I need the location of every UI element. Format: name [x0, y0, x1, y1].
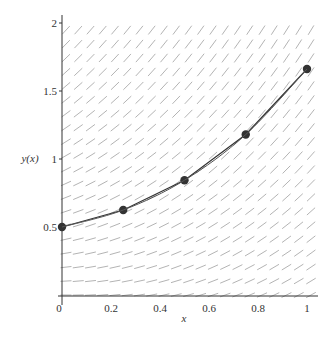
slope-segment — [258, 138, 266, 146]
slope-segment — [123, 124, 131, 131]
slope-segment — [123, 138, 132, 145]
slope-segment — [295, 95, 302, 104]
slope-segment — [234, 68, 241, 77]
slope-segment — [160, 82, 167, 90]
y-tick-label: 2 — [52, 17, 58, 29]
slope-segment — [221, 208, 230, 214]
slope-segment — [196, 208, 205, 214]
slope-segment — [135, 152, 144, 159]
slope-segment — [160, 152, 169, 159]
slope-segment — [185, 54, 192, 63]
slope-segment — [210, 68, 217, 77]
slope-segment — [283, 166, 291, 174]
slope-segment — [173, 26, 180, 35]
slope-segment — [185, 40, 192, 49]
slope-segment — [97, 295, 108, 296]
slope-segment — [271, 82, 278, 91]
slope-segment — [197, 40, 204, 49]
slope-segment — [271, 54, 277, 63]
slope-segment — [183, 251, 193, 255]
slope-segment — [245, 222, 254, 228]
slope-segment — [184, 194, 193, 200]
slope-segment — [196, 180, 205, 187]
slope-segment — [123, 68, 131, 76]
slope-segment — [99, 82, 107, 90]
slope-segment — [147, 180, 156, 186]
y-tick-labels: 0.511.52 — [43, 17, 62, 233]
slope-segment — [208, 265, 218, 269]
slope-segment — [97, 238, 108, 241]
slope-segment — [295, 123, 302, 131]
slope-segment — [122, 195, 132, 200]
slope-segment — [259, 96, 266, 105]
slope-segment — [99, 40, 106, 48]
slope-segment — [98, 223, 108, 227]
slope-segment — [246, 110, 253, 118]
slope-segment — [87, 26, 94, 34]
x-tick-label: 0.2 — [104, 302, 118, 314]
slope-segment — [283, 109, 290, 118]
slope-segment — [307, 166, 315, 174]
slope-segment — [208, 279, 218, 283]
slope-segment — [259, 68, 266, 77]
slope-segment — [98, 195, 108, 200]
y-tick-label: 1.5 — [43, 85, 57, 97]
slope-segment — [283, 67, 289, 76]
slope-segment — [148, 26, 155, 35]
slope-segment — [161, 26, 168, 35]
slope-segment — [110, 280, 121, 282]
slope-segment — [73, 181, 83, 186]
slope-segment — [282, 236, 291, 242]
slope-segment — [160, 138, 168, 145]
slope-segment — [146, 280, 157, 283]
slope-segment — [307, 250, 316, 256]
slope-segment — [147, 251, 157, 255]
slope-segment — [233, 222, 242, 228]
slope-segment — [185, 26, 192, 35]
slope-segment — [74, 54, 82, 62]
slope-segment — [221, 138, 229, 146]
slope-segment — [271, 138, 278, 146]
slope-segment — [123, 152, 132, 158]
slope-segment — [148, 40, 155, 49]
slope-segment — [159, 265, 169, 269]
slope-segment — [222, 68, 229, 77]
slope-segment — [183, 279, 193, 282]
slope-segment — [122, 266, 133, 269]
x-tick-label: 0.8 — [251, 302, 265, 314]
slope-segment — [99, 68, 107, 76]
slope-segment — [307, 222, 315, 229]
slope-segment — [210, 40, 217, 49]
slope-segment — [197, 54, 204, 63]
slope-segment — [160, 110, 168, 118]
slope-segment — [271, 26, 277, 35]
slope-segment — [185, 82, 192, 90]
slope-segment — [271, 40, 277, 49]
slope-segment — [245, 236, 254, 242]
slope-segment — [73, 238, 84, 241]
slope-segment — [172, 110, 180, 118]
slope-segment — [234, 110, 241, 118]
slope-segment — [283, 180, 291, 188]
slope-segment — [111, 68, 119, 76]
slope-segment — [123, 82, 131, 90]
slope-segment — [295, 208, 303, 215]
slope-segment — [198, 26, 204, 35]
slope-segment — [172, 138, 180, 145]
slope-segment — [85, 295, 96, 296]
slope-segment — [196, 194, 205, 200]
slope-segment — [209, 180, 218, 187]
slope-segment — [220, 279, 230, 283]
slope-segment — [257, 279, 267, 284]
slope-segment — [147, 152, 156, 159]
slope-segment — [197, 110, 205, 118]
slope-segment — [124, 54, 131, 62]
slope-segment — [258, 222, 267, 228]
slope-segment — [74, 40, 82, 48]
slope-segment — [99, 54, 107, 62]
slope-segment — [111, 26, 118, 34]
slope-segment — [184, 208, 193, 214]
slope-segment — [197, 152, 205, 159]
slope-segment — [270, 250, 279, 256]
slope-segment — [184, 138, 192, 145]
